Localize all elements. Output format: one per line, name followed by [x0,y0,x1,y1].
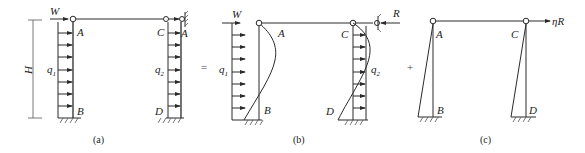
hinge-c [523,18,529,24]
distributed-load-left [232,23,245,120]
hinge-a [430,18,436,24]
applied-force-label: ηR [552,15,564,27]
load-q2-label: q2 [371,63,381,78]
reaction-label: R [392,7,400,19]
load-q1-label: q1 [47,63,56,78]
ground-support-d [158,118,184,123]
node-b-label: B [437,104,444,116]
moment-diagram-ab [418,24,433,117]
node-a-label: A [435,28,443,40]
panel-b: = W q1 A B [201,7,400,146]
ground-support-d [511,117,536,122]
node-d-label: D [154,105,163,117]
hinge-a [256,20,262,26]
height-dimension: H [22,20,42,118]
node-d-label: D [528,104,537,116]
restraint-support [375,14,382,32]
node-a-label: A [277,27,285,39]
panel-a: H W q1 A B [22,5,188,146]
node-c-label: C [157,26,165,38]
load-q2-label: q2 [155,63,165,78]
node-d-label: D [325,105,334,117]
deflection-curve-ab [244,23,276,120]
node-b-label: B [77,105,84,117]
hinge-a [70,16,76,22]
load-q1-label: q1 [219,63,228,78]
node-b-label: B [264,104,271,116]
ground-support-b [232,120,263,125]
hinge-c [164,17,169,22]
node-a-label: A [76,26,84,38]
height-label: H [22,65,34,75]
plus-sign: + [407,61,413,73]
ground-support-b [58,118,81,123]
wind-label: W [232,8,242,20]
caption-c: (c) [480,134,491,146]
ground-support-b [418,117,442,122]
equals-sign: = [201,61,207,73]
wind-label: W [50,5,60,17]
ground-support-d [338,120,368,125]
pin-support-a [180,17,185,22]
node-c-label: C [511,28,519,40]
wall-support [185,11,188,27]
bent-frame-diagram: H W q1 A B [0,0,585,153]
caption-a: (a) [93,134,104,146]
distributed-load-right [168,22,180,118]
caption-b: (b) [293,134,305,146]
distributed-load-left [58,22,72,118]
node-c-label: C [341,28,349,40]
panel-c: + ηR A B C D (c) [407,15,564,146]
